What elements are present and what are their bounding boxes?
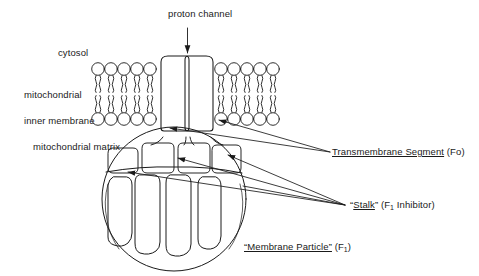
label-stalk-suffix-pre: (F [378, 199, 390, 210]
label-mitochondrial-inner-membrane: mitochondrial inner membrane [13, 75, 95, 140]
label-inner-membrane-line1: mitochondrial [24, 89, 82, 100]
label-membrane-particle-underlined: “Membrane Particle” [244, 241, 332, 252]
label-membrane-particle: “Membrane Particle” (F1) [244, 241, 351, 254]
lipid-bilayer-right [215, 63, 280, 126]
label-membrane-particle-suffix-post: ) [348, 241, 351, 252]
label-proton-channel: proton channel [168, 8, 232, 20]
label-transmembrane-suffix: (Fo) [444, 146, 465, 157]
label-stalk: “Stalk” (F1 Inhibitor) [350, 199, 435, 212]
label-transmembrane-segment: Transmembrane Segment (Fo) [332, 146, 465, 158]
label-stalk-subscript: 1 [390, 204, 394, 211]
leader-line-f1 [243, 186, 345, 205]
label-mitochondrial-matrix: mitochondrial matrix [33, 141, 120, 153]
transmembrane-segment-fo [161, 56, 213, 131]
label-stalk-underlined: Stalk [353, 199, 375, 210]
stalk-region [108, 137, 241, 173]
label-membrane-particle-subscript: 1 [344, 246, 348, 253]
figure-canvas: proton channel cytosol mitochondrial inn… [0, 0, 479, 276]
label-inner-membrane-line2: inner membrane [24, 115, 95, 126]
label-membrane-particle-suffix-pre: (F [332, 241, 344, 252]
label-transmembrane-underlined: Transmembrane Segment [332, 146, 444, 157]
label-cytosol: cytosol [58, 47, 88, 59]
lipid-bilayer-left [92, 63, 157, 126]
label-stalk-suffix-post: Inhibitor) [394, 199, 435, 210]
